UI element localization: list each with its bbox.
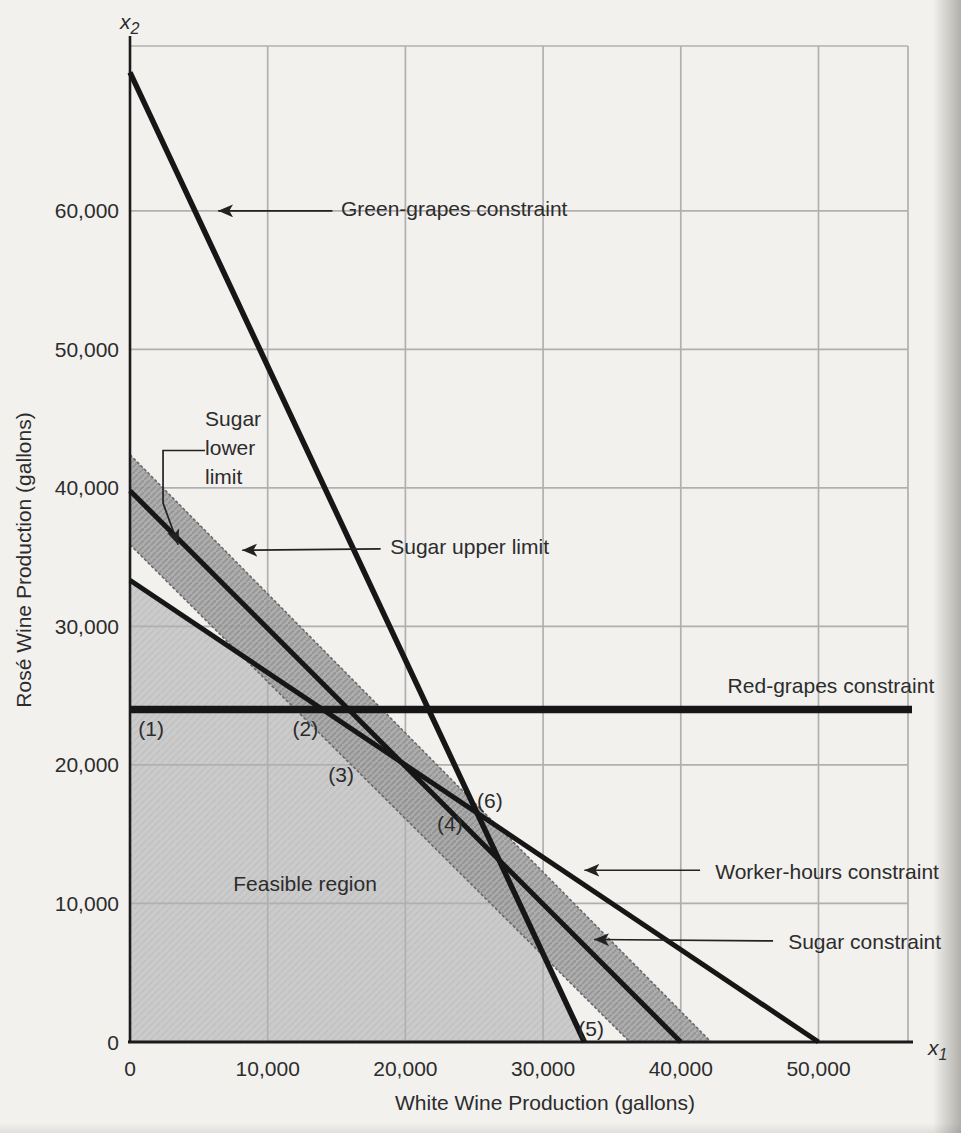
y-tick-label: 30,000	[55, 615, 119, 638]
y-axis-symbol: x2	[119, 10, 140, 37]
y-tick-label: 60,000	[55, 199, 119, 222]
corner-point-label: (6)	[477, 789, 503, 812]
scanned-page: 010,00020,00030,00040,00050,00060,000010…	[0, 0, 961, 1133]
y-tick-label: 20,000	[55, 753, 119, 776]
feasible-region-label: Feasible region	[233, 872, 377, 895]
corner-point-label: (2)	[292, 717, 318, 740]
x-tick-label: 0	[124, 1057, 136, 1080]
x-tick-label: 50,000	[786, 1057, 850, 1080]
corner-point-label: (5)	[578, 1017, 604, 1040]
sugar-upper-label-arrow	[242, 549, 380, 550]
sugar-lower-label: Sugarlowerlimit	[205, 407, 261, 488]
feasible-region-shape	[130, 580, 584, 1042]
x-tick-label: 30,000	[511, 1057, 575, 1080]
x-axis-title: White Wine Production (gallons)	[395, 1091, 695, 1114]
sugar-constraint-label: Sugar constraint	[788, 930, 941, 953]
y-axis-title: Rosé Wine Production (gallons)	[12, 412, 35, 707]
worker-hours-label: Worker-hours constraint	[715, 860, 939, 883]
x-axis-symbol: x1	[927, 1036, 947, 1063]
lp-feasible-region-chart: 010,00020,00030,00040,00050,00060,000010…	[0, 0, 961, 1133]
sugar-constraint-label-arrow	[594, 939, 773, 940]
y-tick-label: 10,000	[55, 892, 119, 915]
red-grapes-label: Red-grapes constraint	[728, 674, 935, 697]
y-tick-label: 0	[107, 1031, 119, 1054]
x-tick-label: 20,000	[373, 1057, 437, 1080]
y-tick-label: 40,000	[55, 476, 119, 499]
x-tick-label: 40,000	[649, 1057, 713, 1080]
corner-point-label: (3)	[328, 763, 354, 786]
y-tick-label: 50,000	[55, 338, 119, 361]
green-grapes-label: Green-grapes constraint	[341, 197, 568, 220]
sugar-upper-label: Sugar upper limit	[390, 535, 549, 558]
corner-point-label: (4)	[437, 812, 463, 835]
corner-point-label: (1)	[138, 717, 164, 740]
x-tick-label: 10,000	[236, 1057, 300, 1080]
